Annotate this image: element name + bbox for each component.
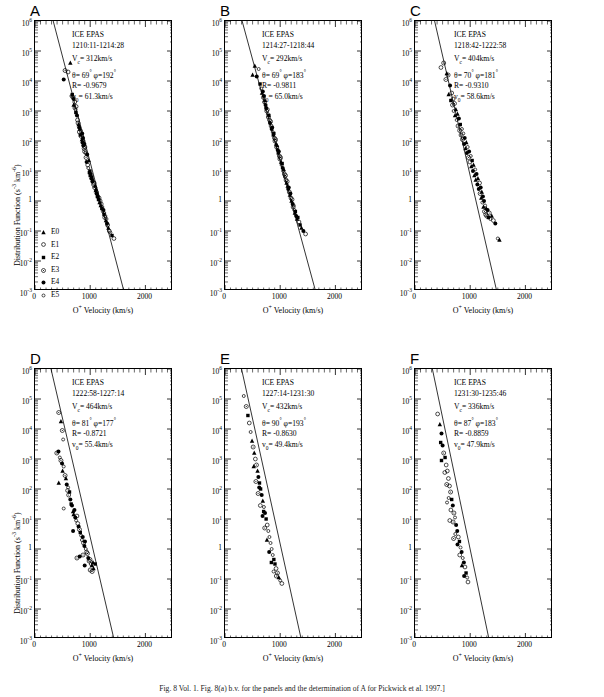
y-tick-label: 101 <box>212 514 222 526</box>
y-tick-label: 101 <box>402 166 412 178</box>
y-tick-label: 104 <box>402 424 412 436</box>
y-tick-label: 10-2 <box>210 256 222 268</box>
y-axis-title: Distribution Function (s-3 km-6) <box>10 164 22 266</box>
y-tick-label: 101 <box>402 514 412 526</box>
open-circle-small-icon <box>38 291 49 300</box>
v0-value: v0= 49.4km/s <box>262 440 314 453</box>
y-tick-label: 1 <box>218 544 222 552</box>
y-tick-label: 10-1 <box>400 574 412 586</box>
y-tick-label: 106 <box>212 16 222 28</box>
vc-value: Vc= 312km/s <box>72 54 124 67</box>
legend-item-e3: E3 <box>38 264 59 277</box>
y-tick-label: 10-2 <box>400 604 412 616</box>
vc-value: Vc= 336km/s <box>454 402 506 415</box>
y-tick-label: 103 <box>212 454 222 466</box>
y-tick-label: 1 <box>408 544 412 552</box>
panel-f: FICE EPAS1231:30-1235:46Vc= 336km/sθ= 87… <box>382 352 562 692</box>
x-tick-label: 0 <box>222 292 226 301</box>
y-tick-label: 102 <box>212 484 222 496</box>
panel-e: EICE EPAS1227:14-1231:30Vc= 432km/sθ= 90… <box>192 352 372 692</box>
x-tick-label: 2000 <box>517 292 532 301</box>
time-range-label: 1227:14-1231:30 <box>262 389 314 400</box>
r-value: R= -0.8630 <box>262 429 314 440</box>
y-tick-label: 10-3 <box>20 286 32 298</box>
y-tick-label: 1 <box>28 544 32 552</box>
x-axis-title: O+ Velocity (km/s) <box>224 302 362 316</box>
instrument-label: ICE EPAS <box>262 378 314 389</box>
panel-annotation-f: ICE EPAS1231:30-1235:46Vc= 336km/sθ= 87°… <box>454 378 506 453</box>
time-range-label: 1218:42-1222:58 <box>454 41 506 52</box>
y-tick-label: 10-3 <box>210 634 222 646</box>
panel-annotation-c: ICE EPAS1218:42-1222:58Vc= 404km/sθ= 70°… <box>454 30 506 105</box>
x-tick-label: 2000 <box>137 640 152 649</box>
y-tick-label: 101 <box>22 514 32 526</box>
panel-annotation-d: ICE EPAS1222:58-1227:14Vc= 464km/sθ= 81°… <box>72 378 124 453</box>
instrument-label: ICE EPAS <box>72 378 124 389</box>
v0-value: v0= 47.9km/s <box>454 440 506 453</box>
figure-root: AICE EPAS1210:11-1214:28Vc= 312km/sθ= 69… <box>0 0 604 697</box>
x-axis-title: O+ Velocity (km/s) <box>414 302 552 316</box>
r-value: R= -0.8859 <box>454 429 506 440</box>
r-value: R= -0.9811 <box>262 81 314 92</box>
y-tick-label: 102 <box>22 484 32 496</box>
time-range-label: 1214:27-1218:44 <box>262 41 314 52</box>
v0-value: v0= 61.3km/s <box>72 92 124 105</box>
legend-label: E1 <box>49 239 59 252</box>
y-tick-label: 105 <box>212 394 222 406</box>
legend-item-e0: E0 <box>38 226 59 239</box>
x-tick-label: 1000 <box>462 292 477 301</box>
y-tick-label: 10-2 <box>400 256 412 268</box>
angles-value: θ= 69° φ=183° <box>262 67 314 81</box>
angles-value: θ= 87° φ=183° <box>454 415 506 429</box>
y-axis-ticks-f: 106105104103102101110-110-210-3 <box>382 368 412 638</box>
x-axis-title: O+ Velocity (km/s) <box>34 650 172 664</box>
y-tick-label: 101 <box>212 166 222 178</box>
instrument-label: ICE EPAS <box>454 378 506 389</box>
legend-label: E3 <box>49 264 59 277</box>
y-tick-label: 105 <box>402 46 412 58</box>
x-tick-label: 0 <box>32 292 36 301</box>
y-tick-label: 10-3 <box>400 286 412 298</box>
vc-value: Vc= 464km/s <box>72 402 124 415</box>
y-tick-label: 102 <box>22 136 32 148</box>
vc-value: Vc= 432km/s <box>262 402 314 415</box>
y-tick-label: 10-3 <box>20 634 32 646</box>
angles-value: θ= 81° φ=177° <box>72 415 124 429</box>
panel-annotation-a: ICE EPAS1210:11-1214:28Vc= 312km/sθ= 69°… <box>72 30 124 105</box>
y-tick-label: 103 <box>402 106 412 118</box>
y-tick-label: 103 <box>22 454 32 466</box>
y-tick-label: 102 <box>402 484 412 496</box>
angles-value: θ= 90° φ=193° <box>262 415 314 429</box>
x-tick-label: 2000 <box>327 640 342 649</box>
open-circle-icon <box>38 240 49 249</box>
y-tick-label: 10-1 <box>400 226 412 238</box>
x-tick-label: 0 <box>412 640 416 649</box>
x-tick-label: 1000 <box>82 292 97 301</box>
y-axis-ticks-c: 106105104103102101110-110-210-3 <box>382 20 412 290</box>
x-tick-label: 0 <box>412 292 416 301</box>
y-tick-label: 1 <box>218 196 222 204</box>
panel-annotation-e: ICE EPAS1227:14-1231:30Vc= 432km/sθ= 90°… <box>262 378 314 453</box>
x-tick-label: 0 <box>222 640 226 649</box>
y-tick-label: 103 <box>402 454 412 466</box>
v0-value: v0= 55.4km/s <box>72 440 124 453</box>
vc-value: Vc= 292km/s <box>262 54 314 67</box>
panel-annotation-b: ICE EPAS1214:27-1218:44Vc= 292km/sθ= 69°… <box>262 30 314 105</box>
vc-value: Vc= 404km/s <box>454 54 506 67</box>
y-tick-label: 106 <box>212 364 222 376</box>
y-tick-label: 10-3 <box>210 286 222 298</box>
filled-square-icon <box>38 253 49 262</box>
legend-item-e5: E5 <box>38 289 59 302</box>
angles-value: θ= 69° φ=192° <box>72 67 124 81</box>
y-tick-label: 104 <box>402 76 412 88</box>
x-axis-title: O+ Velocity (km/s) <box>34 302 172 316</box>
panel-d: DICE EPAS1222:58-1227:14Vc= 464km/sθ= 81… <box>2 352 182 692</box>
y-tick-label: 1 <box>28 196 32 204</box>
legend-label: E4 <box>49 276 59 289</box>
legend-label: E2 <box>49 251 59 264</box>
legend-item-e1: E1 <box>38 239 59 252</box>
r-value: R= -0.9679 <box>72 81 124 92</box>
legend-label: E0 <box>49 226 59 239</box>
time-range-label: 1210:11-1214:28 <box>72 41 124 52</box>
y-tick-label: 105 <box>402 394 412 406</box>
